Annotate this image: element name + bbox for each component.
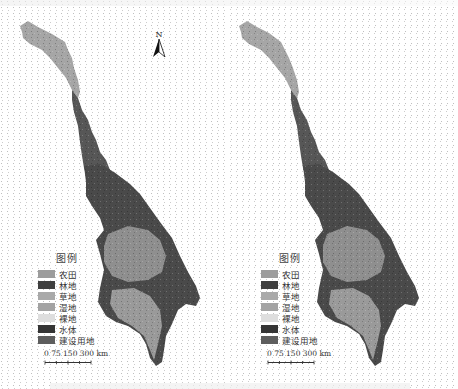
legend-title: 图例	[279, 250, 318, 265]
scale-bar-line	[267, 360, 315, 365]
legend-item-forest: 林地	[38, 280, 95, 291]
legend-item-farmland: 农田	[261, 269, 318, 280]
region-upper	[239, 21, 299, 98]
north-arrow: N	[152, 30, 166, 61]
swatch-farmland	[38, 270, 55, 278]
map-panel-left: N 图例 农田 林地 草地 湿地 裸地 水体	[0, 0, 229, 389]
swatch-water	[261, 325, 278, 333]
legend-right: 图例 农田 林地 草地 湿地 裸地 水体 建设用地	[261, 250, 318, 346]
scale-bar-ticks: 0 75 150 300 km	[44, 349, 108, 358]
legend-item-built-up: 建设用地	[261, 335, 318, 346]
scale-bar-left: 0 75 150 300 km	[44, 349, 108, 367]
legend-item-grassland: 草地	[38, 291, 95, 302]
swatch-built-up	[261, 336, 278, 344]
swatch-forest	[38, 281, 55, 289]
cropped-text-top	[0, 0, 458, 6]
swatch-wetland	[261, 303, 278, 311]
scale-bar-ticks: 0 75 150 300 km	[267, 349, 331, 358]
swatch-grassland	[38, 292, 55, 300]
swatch-bareland	[261, 314, 278, 322]
cropped-text-bottom	[50, 383, 410, 389]
scale-bar-line	[44, 360, 92, 365]
legend-item-grassland: 草地	[261, 291, 318, 302]
legend-left: 图例 农田 林地 草地 湿地 裸地 水体 建设用地	[38, 250, 95, 346]
swatch-farmland	[261, 270, 278, 278]
scale-bar-right: 0 75 150 300 km	[267, 349, 331, 367]
north-arrow-icon	[152, 39, 166, 57]
legend-item-water: 水体	[261, 324, 318, 335]
legend-item-wetland: 湿地	[261, 302, 318, 313]
swatch-bareland	[38, 314, 55, 322]
legend-item-water: 水体	[38, 324, 95, 335]
legend-title: 图例	[56, 250, 95, 265]
legend-item-bareland: 裸地	[38, 313, 95, 324]
legend-item-built-up: 建设用地	[38, 335, 95, 346]
land-use-map-left	[0, 0, 229, 389]
map-panel-right: 图例 农田 林地 草地 湿地 裸地 水体 建设用地 0	[229, 0, 458, 389]
legend-item-wetland: 湿地	[38, 302, 95, 313]
north-label: N	[152, 30, 166, 39]
legend-item-bareland: 裸地	[261, 313, 318, 324]
legend-item-forest: 林地	[261, 280, 318, 291]
region-upper	[20, 21, 80, 98]
swatch-grassland	[261, 292, 278, 300]
swatch-built-up	[38, 336, 55, 344]
swatch-wetland	[38, 303, 55, 311]
swatch-forest	[261, 281, 278, 289]
legend-item-farmland: 农田	[38, 269, 95, 280]
swatch-water	[38, 325, 55, 333]
